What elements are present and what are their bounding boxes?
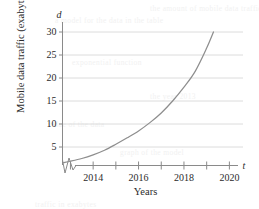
- y-tick-label: 5: [52, 141, 57, 152]
- y-tick-label: 15: [47, 95, 57, 106]
- y-axis-variable-label: d: [57, 9, 63, 20]
- chart-figure: the amount of mobile data traffic a mode…: [0, 0, 259, 209]
- y-axis-ticks: [59, 32, 63, 147]
- y-tick-label: 25: [47, 49, 57, 60]
- x-tick-label: 2016: [129, 172, 149, 183]
- y-tick-label: 30: [47, 26, 57, 37]
- x-axis-variable-label: t: [243, 160, 246, 171]
- chart-canvas: 51015202530 2014201620182020 d t: [0, 0, 259, 209]
- x-tick-label: 2014: [83, 172, 103, 183]
- x-tick-label: 2018: [174, 172, 194, 183]
- x-axis-title: Years: [0, 186, 259, 197]
- data-curve: [64, 32, 214, 163]
- y-axis-title: Mobile data traffic (exabytes): [15, 0, 26, 126]
- y-tick-label: 10: [47, 118, 57, 129]
- x-axis-title-text: Years: [134, 186, 157, 197]
- y-tick-label: 20: [47, 72, 57, 83]
- x-axis-tick-labels: 2014201620182020: [83, 172, 239, 183]
- y-axis-tick-labels: 51015202530: [47, 26, 57, 152]
- x-tick-label: 2020: [219, 172, 239, 183]
- gridlines: [63, 32, 244, 147]
